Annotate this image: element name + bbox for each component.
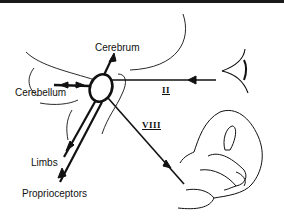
label-cerebellum: Cerebellum <box>15 88 66 98</box>
brainstem-curve-left <box>67 110 72 140</box>
vestibular-nuclei-node <box>86 71 116 105</box>
label-vestibular-nerve: VIII <box>142 121 161 130</box>
inner-ear-icon <box>178 110 262 208</box>
label-optic-nerve: II <box>162 86 170 95</box>
eye-icon <box>222 49 248 93</box>
label-limbs: Limbs <box>31 158 58 168</box>
proprioceptors-edge <box>58 102 102 182</box>
diagram-canvas: Cerebrum Cerebellum Limbs Proprioceptors… <box>0 0 284 223</box>
label-cerebrum: Cerebrum <box>95 43 139 53</box>
cerebrum-lower-arc <box>26 52 95 80</box>
cerebrum-edge <box>104 53 116 75</box>
vestibular-nerve-edge <box>108 98 184 184</box>
limbs-edge <box>64 100 96 157</box>
label-proprioceptors: Proprioceptors <box>22 189 87 199</box>
cerebellum-arc-lower <box>40 100 78 104</box>
